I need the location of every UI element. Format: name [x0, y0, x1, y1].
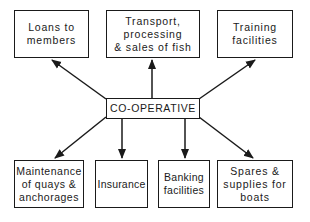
node-center-cooperative: CO-OPERATIVE — [106, 98, 200, 119]
node-insurance: Insurance — [95, 160, 148, 208]
node-spares: Spares & supplies for boats — [217, 160, 293, 208]
node-training: Training facilities — [217, 10, 293, 58]
arrow-to-training — [199, 60, 255, 99]
node-maintenance: Maintenance of quays & anchorages — [14, 160, 84, 208]
arrow-to-maintenance — [55, 117, 106, 158]
node-loans: Loans to members — [14, 10, 89, 58]
arrow-to-loans — [52, 60, 106, 99]
node-transport: Transport, processing & sales of fish — [106, 10, 200, 58]
node-banking: Banking facilities — [158, 160, 210, 208]
arrow-to-spares — [199, 117, 253, 158]
